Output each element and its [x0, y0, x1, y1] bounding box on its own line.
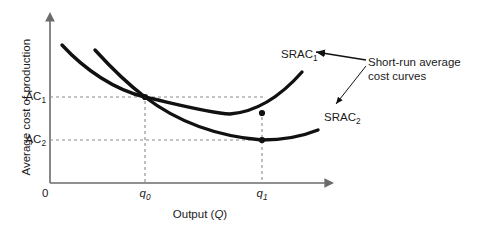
marker-srac1-at-q1: [259, 110, 265, 116]
origin-label: 0: [42, 186, 48, 200]
x-axis-title: Output (Q): [140, 207, 260, 221]
marker-minimum-q1: [259, 137, 265, 143]
x-tick-q1: q1: [242, 186, 282, 204]
srac1-label-base: SRAC: [281, 48, 313, 60]
annotation-line-1: Short-run average: [368, 55, 476, 69]
annotation-text: Short-run average cost curves: [368, 55, 476, 84]
srac2-label-subscript: 2: [356, 117, 361, 126]
y-tick-ac1-subscript: 1: [41, 96, 46, 105]
y-tick-ac1: AC1: [2, 89, 46, 107]
chart-canvas: [0, 0, 477, 238]
y-tick-ac2-base: AC: [25, 133, 41, 145]
x-axis-title-variable: Q: [214, 208, 223, 220]
y-tick-ac2-subscript: 2: [41, 139, 46, 148]
annotation-arrow-to-srac2: [336, 66, 366, 104]
chart-figure: Average cost of production Output (Q) 0 …: [0, 0, 477, 238]
y-tick-ac2: AC2: [2, 132, 46, 150]
x-tick-q0: q0: [125, 186, 165, 204]
annotation-arrow-to-srac1: [316, 52, 366, 60]
reference-lines: [50, 95, 264, 183]
srac2-label-base: SRAC: [324, 111, 356, 123]
y-axis-title: Average cost of production: [19, 17, 33, 197]
annotation-line-2: cost curves: [368, 69, 476, 83]
annotation-leader-lines: [316, 52, 366, 104]
srac1-label-subscript: 1: [313, 54, 318, 63]
axis-lines: [50, 20, 326, 183]
srac2-label: SRAC2: [324, 110, 361, 128]
srac1-label: SRAC1: [281, 47, 318, 65]
x-tick-q0-subscript: 0: [146, 193, 151, 202]
x-tick-q1-subscript: 1: [263, 193, 268, 202]
y-tick-ac1-base: AC: [25, 90, 41, 102]
x-axis-title-prefix: Output (: [173, 208, 215, 220]
x-axis-title-suffix: ): [223, 208, 227, 220]
marker-intersection-q0: [142, 94, 148, 100]
